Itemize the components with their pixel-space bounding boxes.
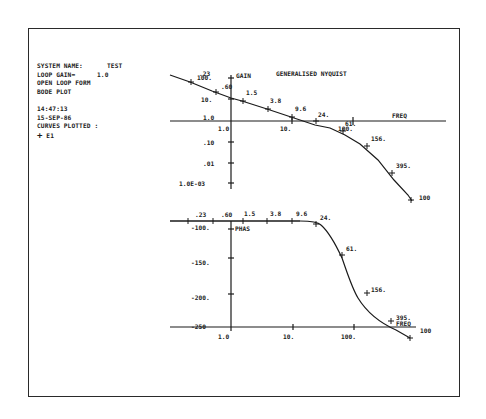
phase-point-markers <box>188 218 413 341</box>
phase-pt-0.60: .60 <box>221 211 232 218</box>
gain-pt-9.6: 9.6 <box>295 105 306 112</box>
phase-freq-tick-100: 100. <box>341 333 356 340</box>
phase-labels: PHAS -100. -150. -200. -250 1.0 10. 100.… <box>191 210 431 340</box>
phase-freq-label: FREQ <box>396 320 411 327</box>
phase-freq-tick-10: 10. <box>283 333 294 340</box>
phase-pt-1000: 100 <box>420 327 431 334</box>
gain-tick-0.001: 1.0E-03 <box>179 180 205 187</box>
phase-pt-9.6: 9.6 <box>296 210 307 217</box>
chart-title: GENERALISED NYQUIST <box>276 70 347 77</box>
gain-pt-61: 61. <box>345 120 356 127</box>
phase-tick-100: -100. <box>191 224 210 231</box>
phase-pt-156: 156. <box>371 286 386 293</box>
phase-pt-24: 24. <box>320 214 331 221</box>
phase-curve <box>170 221 410 338</box>
freq-axis-label: FREQ <box>392 112 407 119</box>
gain-tick-0.01: .01 <box>203 160 214 167</box>
phase-tick-250: -250 <box>191 323 206 330</box>
phase-pt-61: 61. <box>346 245 357 252</box>
phase-axis-label: PHAS <box>235 225 250 232</box>
gain-pt-3.8: 3.8 <box>270 97 281 104</box>
gain-tick-10: 10. <box>201 96 212 103</box>
phase-tick-150: -150. <box>191 259 210 266</box>
phase-freq-tick-1: 1.0 <box>218 333 229 340</box>
gain-tick-1: 1.0 <box>203 114 214 121</box>
gain-pt-0.60: .60 <box>221 83 232 90</box>
phase-tick-200: -200. <box>191 294 210 301</box>
gain-pt-0.23: .23 <box>199 70 210 77</box>
phase-pt-0.23: .23 <box>195 211 206 218</box>
gain-pt-1000: 100 <box>419 194 430 201</box>
gain-axis-label: GAIN <box>236 72 251 79</box>
gain-pt-24: 24. <box>318 111 329 118</box>
bode-plot-svg: GENERALISED NYQUIST GAIN FREQ 10. 1.0 .1… <box>0 0 486 419</box>
gain-pt-1.5: 1.5 <box>246 89 257 96</box>
gain-axes <box>170 75 446 189</box>
phase-pt-3.8: 3.8 <box>270 210 281 217</box>
gain-pt-395: 395. <box>396 162 411 169</box>
gain-pt-156: 156. <box>371 135 386 142</box>
freq-tick-1: 1.0 <box>218 125 229 132</box>
gain-labels: GENERALISED NYQUIST GAIN FREQ 10. 1.0 .1… <box>179 70 430 201</box>
phase-pt-1.5: 1.5 <box>244 210 255 217</box>
freq-tick-10: 10. <box>280 125 291 132</box>
phase-axes <box>170 221 416 331</box>
gain-tick-0.1: .10 <box>203 139 214 146</box>
